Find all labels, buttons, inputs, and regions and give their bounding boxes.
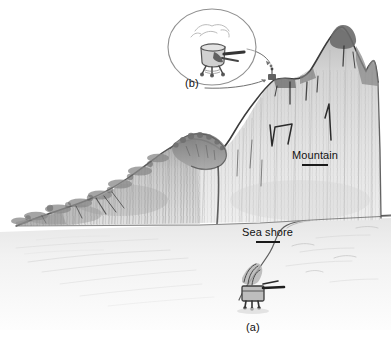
label-sea-shore: Sea shore [242, 226, 293, 243]
label-mountain-text: Mountain [292, 149, 338, 161]
label-sea-shore-underline [256, 241, 280, 243]
label-mountain: Mountain [292, 149, 338, 166]
figure-container: Mountain Sea shore (a) (b) [0, 0, 391, 346]
label-mountain-underline [302, 164, 328, 166]
sketch-illustration [0, 0, 391, 346]
callout-bubble [168, 9, 272, 88]
label-panel-a: (a) [246, 321, 260, 333]
ridge-instrument [268, 68, 276, 80]
label-panel-b: (b) [185, 77, 199, 89]
label-sea-shore-text: Sea shore [242, 226, 293, 238]
sea-shore-area [0, 218, 391, 330]
